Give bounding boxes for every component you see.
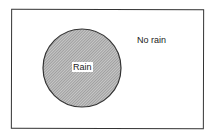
rain-label: Rain xyxy=(72,62,93,72)
venn-diagram xyxy=(0,0,213,139)
no-rain-label: No rain xyxy=(137,35,166,45)
